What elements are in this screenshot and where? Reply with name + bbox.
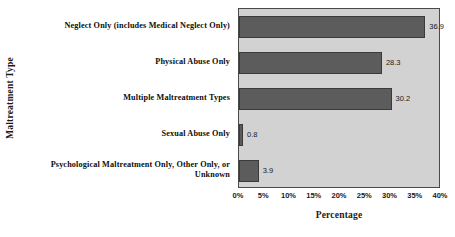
bar-value-label: 30.2 (396, 94, 411, 103)
x-tick-label: 20% (331, 191, 346, 200)
category-axis-labels: Neglect Only (includes Medical Neglect O… (18, 8, 234, 188)
category-label: Multiple Maltreatment Types (18, 93, 230, 104)
y-axis-title: Maltreatment Type (2, 0, 18, 195)
x-tick-label: 5% (258, 191, 269, 200)
category-label: Neglect Only (includes Medical Neglect O… (18, 21, 230, 32)
bar-value-label: 36.9 (429, 22, 444, 31)
x-tick-label: 40% (432, 191, 447, 200)
bar (239, 52, 382, 74)
bar (239, 88, 392, 110)
y-axis-title-text: Maltreatment Type (5, 57, 15, 139)
bar (239, 160, 259, 182)
x-tick-label: 25% (357, 191, 372, 200)
bar-value-label: 28.3 (386, 58, 401, 67)
bar (239, 124, 243, 146)
bar-value-label: 0.8 (247, 130, 257, 139)
x-tick-label: 0% (233, 191, 244, 200)
bar-value-label: 3.9 (263, 166, 273, 175)
plot-area: 36.928.330.20.83.9 (238, 8, 440, 188)
x-tick-label: 35% (407, 191, 422, 200)
category-label: Sexual Abuse Only (18, 129, 230, 140)
category-label: Psychological Maltreatment Only, Other O… (18, 160, 230, 181)
x-axis-tick-labels: 0%5%10%15%20%25%30%35%40% (238, 191, 440, 205)
bar (239, 16, 425, 38)
x-tick-label: 30% (382, 191, 397, 200)
x-tick-label: 10% (281, 191, 296, 200)
category-label: Physical Abuse Only (18, 57, 230, 68)
bar-chart: Maltreatment Type Neglect Only (includes… (0, 0, 455, 237)
x-tick-label: 15% (306, 191, 321, 200)
x-axis-title: Percentage (238, 210, 440, 220)
